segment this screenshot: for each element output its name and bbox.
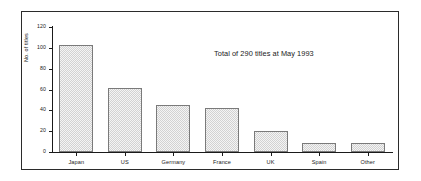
y-axis-tick-label: 40	[40, 106, 46, 112]
x-axis-tick-mark	[368, 153, 369, 156]
x-axis-tick-label: Germany	[149, 158, 198, 166]
x-axis-tick-label: UK	[246, 158, 295, 166]
x-axis-tick-label: US	[101, 158, 150, 166]
x-axis-tick-label: Other	[343, 158, 392, 166]
bar	[59, 45, 93, 152]
bar	[254, 131, 288, 152]
y-axis-tick-label: 20	[40, 127, 46, 133]
x-axis-tick-label: Spain	[295, 158, 344, 166]
y-axis-tick-label: 80	[40, 65, 46, 71]
y-axis-tick-label: 0	[43, 148, 46, 154]
chart-annotation: Total of 290 titles at May 1993	[214, 49, 314, 59]
bar	[108, 88, 142, 152]
y-axis-tick-label: 100	[37, 44, 46, 50]
x-axis-tick-mark	[319, 153, 320, 156]
bar	[156, 105, 190, 152]
bar	[205, 108, 239, 152]
x-axis-tick-mark	[76, 153, 77, 156]
x-axis-tick-label: Japan	[52, 158, 101, 166]
figure-bar-chart: 020406080100120 No. of titles JapanUSGer…	[0, 0, 421, 181]
x-axis-tick-label: France	[198, 158, 247, 166]
x-axis-tick-mark	[222, 153, 223, 156]
y-axis-label: No. of titles	[23, 2, 30, 62]
bar	[351, 143, 385, 152]
y-axis-tick-label: 60	[40, 86, 46, 92]
bar	[302, 143, 336, 152]
y-axis-tick-mark	[49, 152, 52, 153]
plot-area	[52, 27, 392, 152]
y-axis-tick-label: 120	[37, 23, 46, 29]
x-axis-tick-mark	[173, 153, 174, 156]
x-axis-tick-mark	[125, 153, 126, 156]
x-axis-tick-mark	[271, 153, 272, 156]
